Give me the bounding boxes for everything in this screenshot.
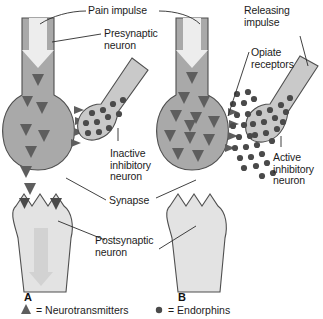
leader-synapse-right [156, 180, 196, 198]
inactive-inhibitory-neuron-a [78, 58, 148, 140]
postsynaptic-neuron-b [167, 194, 227, 292]
impulse-continues-a [34, 228, 48, 276]
label-opiate-receptors: Opiate receptors [251, 47, 294, 70]
label-releasing-impulse: Releasing impulse [244, 5, 290, 28]
panel-letter-a: A [24, 291, 32, 303]
label-presynaptic-neuron: Presynaptic neuron [104, 28, 158, 51]
legend-circle-icon [155, 306, 163, 314]
panel-letter-b: B [178, 291, 186, 303]
label-inactive-inhibitory-neuron: Inactive inhibitory neuron [110, 148, 151, 183]
label-synapse: Synapse [109, 195, 149, 207]
legend-label-endorphins: = Endorphins [168, 304, 230, 316]
leader-opiate-receptors [228, 52, 249, 116]
label-pain-impulse: Pain impulse [88, 5, 147, 17]
neurotransmitters-cleft-a [20, 166, 36, 195]
label-postsynaptic-neuron: Postsynaptic neuron [95, 235, 153, 258]
leader-presynaptic-neuron [52, 34, 101, 42]
label-active-inhibitory-neuron: Active inhibitory neuron [273, 152, 314, 187]
legend-label-neurotransmitters: = Neurotransmitters [36, 304, 129, 316]
pain-endorphin-diagram: Pain impulse Presynaptic neuron Releasin… [0, 0, 323, 319]
legend-triangle-icon [20, 303, 32, 315]
leader-synapse-left [66, 178, 106, 200]
